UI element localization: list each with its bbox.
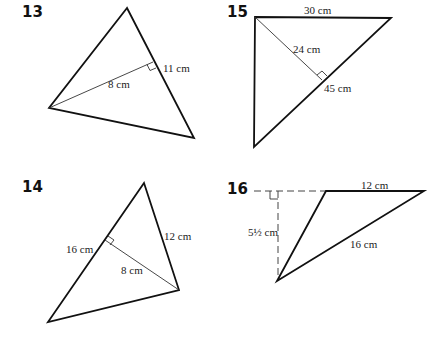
top-label: 12 cm bbox=[361, 179, 389, 191]
triangle bbox=[277, 191, 424, 281]
figure-number: 15 bbox=[227, 3, 248, 21]
height-label: 8 cm bbox=[121, 264, 143, 276]
base-label: 45 cm bbox=[324, 82, 352, 94]
right-angle-marker bbox=[317, 71, 327, 76]
triangle-diagrams: 13 11 cm 8 cm 15 30 cm 24 cm 45 cm 14 12… bbox=[0, 0, 443, 338]
figure-15: 15 30 cm 24 cm 45 cm bbox=[227, 3, 391, 147]
right-label: 12 cm bbox=[164, 230, 192, 242]
right-angle-marker bbox=[108, 236, 114, 245]
figure-14: 14 12 cm 16 cm 8 cm bbox=[22, 178, 192, 322]
figure-number: 16 bbox=[227, 180, 248, 198]
side-label: 11 cm bbox=[163, 62, 190, 74]
base-label: 16 cm bbox=[66, 243, 94, 255]
height-label: 5½ cm bbox=[248, 226, 278, 238]
figure-13: 13 11 cm 8 cm bbox=[22, 3, 194, 138]
altitude-line bbox=[49, 62, 153, 108]
right-angle-marker bbox=[147, 65, 156, 71]
right-angle-marker bbox=[270, 191, 278, 199]
figure-number: 14 bbox=[22, 178, 43, 196]
top-label: 30 cm bbox=[304, 4, 332, 16]
figure-16: 16 12 cm 16 cm 5½ cm bbox=[227, 179, 424, 281]
height-label: 8 cm bbox=[108, 78, 130, 90]
triangle bbox=[254, 17, 391, 147]
slant-label: 16 cm bbox=[350, 238, 378, 250]
height-label: 24 cm bbox=[293, 43, 321, 55]
figure-number: 13 bbox=[22, 3, 43, 21]
